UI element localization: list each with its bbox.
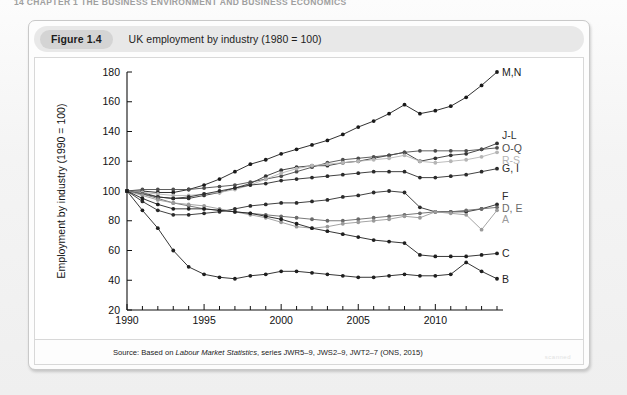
- plot-area: 2040608010012014016018019901995200020052…: [34, 57, 584, 339]
- data-point: [356, 171, 360, 175]
- data-point: [387, 240, 391, 244]
- data-point: [341, 222, 345, 226]
- line-chart: 2040608010012014016018019901995200020052…: [35, 58, 585, 340]
- data-point: [264, 272, 268, 276]
- data-point: [495, 252, 499, 256]
- series-label-gi: G, I: [502, 162, 519, 174]
- series-o-q: O-Q: [125, 142, 522, 193]
- data-point: [326, 219, 330, 223]
- data-point: [449, 272, 453, 276]
- data-point: [295, 201, 299, 205]
- data-point: [433, 161, 437, 165]
- data-point: [310, 226, 314, 230]
- data-point: [495, 70, 499, 74]
- data-point: [310, 143, 314, 147]
- data-point: [403, 241, 407, 245]
- data-point: [449, 174, 453, 178]
- series-label-f: F: [502, 190, 508, 202]
- data-point: [495, 142, 499, 146]
- data-point: [295, 269, 299, 273]
- data-point: [279, 269, 283, 273]
- series-label-j-l: J-L: [502, 129, 517, 141]
- data-point: [156, 188, 160, 192]
- data-point: [387, 156, 391, 160]
- y-tick-label: 180: [102, 66, 120, 78]
- source-text: Source: Based on Labour Market Statistic…: [113, 348, 423, 357]
- data-point: [341, 274, 345, 278]
- data-point: [480, 269, 484, 273]
- data-point: [141, 197, 145, 201]
- data-point: [233, 170, 237, 174]
- x-tick-label: 2000: [269, 314, 293, 326]
- data-point: [264, 202, 268, 206]
- data-point: [248, 183, 252, 187]
- data-point: [356, 235, 360, 239]
- data-point: [495, 208, 499, 212]
- data-point: [187, 188, 191, 192]
- data-point: [279, 152, 283, 156]
- data-point: [464, 149, 468, 153]
- data-point: [449, 153, 453, 157]
- data-point: [341, 173, 345, 177]
- y-tick-label: 120: [102, 155, 120, 167]
- data-point: [356, 275, 360, 279]
- data-point: [341, 133, 345, 137]
- data-point: [480, 83, 484, 87]
- data-point: [418, 205, 422, 209]
- data-point: [372, 158, 376, 162]
- data-point: [171, 197, 175, 201]
- data-point: [141, 208, 145, 212]
- data-point: [403, 103, 407, 107]
- data-point: [218, 189, 222, 193]
- data-point: [264, 182, 268, 186]
- data-point: [202, 211, 206, 215]
- data-point: [218, 208, 222, 212]
- data-point: [387, 274, 391, 278]
- data-point: [341, 195, 345, 199]
- y-axis-title: Employment by industry (1990 = 100): [55, 104, 67, 279]
- x-tick-label: 1990: [115, 314, 139, 326]
- data-point: [433, 210, 437, 214]
- data-point: [187, 202, 191, 206]
- data-point: [326, 162, 330, 166]
- running-head: 14 CHAPTER 1 THE BUSINESS ENVIRONMENT AN…: [14, 0, 346, 7]
- data-point: [187, 195, 191, 199]
- data-point: [310, 271, 314, 275]
- data-point: [295, 167, 299, 171]
- data-point: [202, 186, 206, 190]
- data-point: [372, 219, 376, 223]
- data-point: [171, 188, 175, 192]
- data-point: [480, 155, 484, 159]
- data-point: [279, 217, 283, 221]
- data-point: [326, 174, 330, 178]
- y-tick-label: 40: [108, 274, 120, 286]
- data-point: [418, 112, 422, 116]
- data-point: [480, 253, 484, 257]
- x-tick-label: 2005: [347, 314, 371, 326]
- data-point: [264, 177, 268, 181]
- source-line: Source: Based on Labour Market Statistic…: [34, 339, 584, 365]
- data-point: [218, 275, 222, 279]
- data-point: [464, 173, 468, 177]
- data-point: [279, 171, 283, 175]
- data-point: [202, 272, 206, 276]
- data-point: [218, 185, 222, 189]
- data-point: [356, 220, 360, 224]
- data-point: [264, 158, 268, 162]
- watermark-text: scanned: [545, 354, 571, 360]
- data-point: [464, 261, 468, 265]
- data-point: [356, 194, 360, 198]
- data-point: [480, 228, 484, 232]
- data-point: [433, 149, 437, 153]
- data-point: [310, 200, 314, 204]
- y-tick-label: 140: [102, 125, 120, 137]
- data-point: [326, 229, 330, 233]
- series-label-mn: M,N: [502, 66, 521, 78]
- data-point: [418, 176, 422, 180]
- data-point: [433, 109, 437, 113]
- data-point: [433, 176, 437, 180]
- data-point: [449, 211, 453, 215]
- data-point: [372, 275, 376, 279]
- data-point: [233, 210, 237, 214]
- data-point: [264, 214, 268, 218]
